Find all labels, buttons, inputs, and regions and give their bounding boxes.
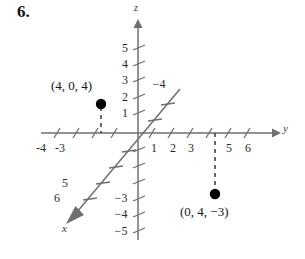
problem-number: 6. <box>17 2 30 22</box>
z-axis-group <box>133 19 145 240</box>
y-tick-label--3: -3 <box>51 141 69 156</box>
z-tick-label-5: 5 <box>118 41 132 56</box>
coordinate-plot-figure: 6. <box>0 0 305 259</box>
y-tick-label-3: 3 <box>184 141 198 156</box>
x-tick-label-6: 6 <box>50 191 64 206</box>
point-label-0-4-neg3: (0, 4, −3) <box>180 204 229 220</box>
z-tick-label--5: −5 <box>110 224 132 239</box>
y-tick-label--4: -4 <box>32 141 50 156</box>
x-tick-label--4: −4 <box>148 77 170 92</box>
y-tick-label-2: 2 <box>166 141 180 156</box>
plotted-point-0-4-neg3 <box>210 189 220 199</box>
z-tick-label-4: 4 <box>118 57 132 72</box>
z-tick-label--3: −3 <box>110 191 132 206</box>
x-tick-label-5: 5 <box>58 176 72 191</box>
z-axis-arrowhead <box>134 19 143 28</box>
z-tick-label-1: 1 <box>118 106 132 121</box>
z-tick-label--4: −4 <box>110 207 132 222</box>
x-axis-arrowhead <box>66 206 84 224</box>
y-tick-label-1: 1 <box>147 141 161 156</box>
point-label-4-0-4: (4, 0, 4) <box>51 78 92 94</box>
z-tick-label-2: 2 <box>118 90 132 105</box>
y-tick-label-5: 5 <box>222 141 236 156</box>
y-axis-arrowhead <box>272 129 281 138</box>
plotted-point-4-0-4 <box>96 99 106 109</box>
y-axis-group <box>41 128 281 138</box>
axes-svg <box>0 0 305 259</box>
x-axis-label: x <box>62 222 67 234</box>
z-tick-label-3: 3 <box>118 73 132 88</box>
y-tick-label-6: 6 <box>241 141 255 156</box>
y-axis-label: y <box>283 122 288 134</box>
z-axis-label: z <box>134 2 138 13</box>
